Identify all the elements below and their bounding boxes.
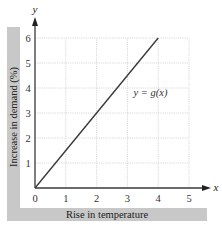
series-annotation: y = g(x) [133,87,168,99]
x-tick-label: 4 [156,193,162,204]
x-tick-label: 1 [63,193,68,204]
y-axis-title: Increase in demand (%) [8,67,20,167]
chart: xy012345123456y = g(x) Rise in temperatu… [0,0,222,228]
x-axis-letter: x [213,181,219,193]
y-axis-letter: y [32,3,38,15]
axes [32,17,211,191]
x-tick-label: 0 [32,193,37,204]
x-axis-title: Rise in temperature [66,209,149,220]
y-tick-label: 6 [25,33,30,44]
x-tick-label: 3 [125,193,130,204]
y-tick-label: 2 [25,133,30,144]
grid [35,38,189,188]
labels: xy012345123456y = g(x) [25,3,218,204]
y-tick-label: 5 [25,58,30,69]
x-axis-arrow-icon [202,185,211,191]
y-tick-label: 1 [25,158,30,169]
x-tick-label: 5 [186,193,191,204]
x-tick-label: 2 [94,193,99,204]
y-tick-label: 3 [25,108,30,119]
y-axis-arrow-icon [32,17,38,26]
y-tick-label: 4 [25,83,31,94]
